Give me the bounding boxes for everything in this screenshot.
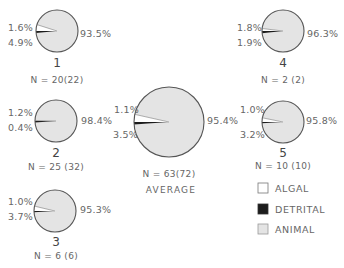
pie-chart-figure: 1.6% 4.9% 93.5% 1 N = 20(22) 1.8% 1.9% 9… xyxy=(0,0,344,268)
pie-2-animal-label: 98.4% xyxy=(81,115,112,126)
avg-algal-label: 3.5% xyxy=(113,129,138,140)
pie-2-id: 2 xyxy=(52,146,60,160)
pie-2-detrital-label: 1.2% xyxy=(8,107,33,118)
legend-animal-swatch xyxy=(258,224,268,234)
pie-4-id: 4 xyxy=(279,56,287,70)
pie-1-algal-label: 4.9% xyxy=(8,37,33,48)
pie-1-id: 1 xyxy=(53,56,61,70)
pie-4-animal-label: 96.3% xyxy=(307,28,338,39)
pie-3-algal-label: 3.7% xyxy=(8,211,33,222)
pies-group xyxy=(34,10,304,232)
pie-5-id: 5 xyxy=(279,146,287,160)
legend-detrital-swatch xyxy=(258,204,268,214)
pie-2-n: N = 25 (32) xyxy=(28,162,84,172)
pie-5-animal-label: 95.8% xyxy=(306,115,337,126)
avg-n: N = 63(72) xyxy=(143,169,196,179)
legend-detrital-label: DETRITAL xyxy=(275,204,325,215)
pie-5-n: N = 10 (10) xyxy=(255,161,311,171)
pie-3-animal-label: 95.3% xyxy=(80,204,111,215)
pie-5-detrital-label: 1.0% xyxy=(240,104,265,115)
pie-1-animal-label: 93.5% xyxy=(80,28,111,39)
pie-1-n: N = 20(22) xyxy=(31,75,84,85)
pie-3-detrital-label: 1.0% xyxy=(8,196,33,207)
pie-3-id: 3 xyxy=(52,235,60,249)
avg-detrital-label: 1.1% xyxy=(114,104,139,115)
avg-title: AVERAGE xyxy=(146,185,196,195)
legend-algal-label: ALGAL xyxy=(275,183,309,194)
pie-2-algal-label: 0.4% xyxy=(8,122,33,133)
legend-animal-label: ANIMAL xyxy=(275,224,315,235)
pie-5-algal-label: 3.2% xyxy=(240,129,265,140)
pie-4-detrital-label: 1.8% xyxy=(237,22,262,33)
pie-4-n: N = 2 (2) xyxy=(261,75,305,85)
avg-animal-label: 95.4% xyxy=(207,115,238,126)
legend-algal-swatch xyxy=(258,183,268,193)
pie-4-algal-label: 1.9% xyxy=(237,37,262,48)
pie-3-n: N = 6 (6) xyxy=(34,251,78,261)
legend: ALGAL DETRITAL ANIMAL xyxy=(258,183,325,235)
pie-1-detrital-label: 1.6% xyxy=(8,22,33,33)
